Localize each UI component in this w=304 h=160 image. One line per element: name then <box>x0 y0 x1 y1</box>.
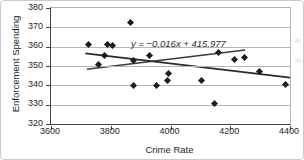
y-tick-label: 360 <box>13 41 43 50</box>
gridline-y-340 <box>51 85 290 86</box>
y-tick-mark <box>46 47 50 48</box>
trendline-equation: y = −0.016x + 415.977 <box>131 38 251 49</box>
y-tick-mark <box>46 66 50 67</box>
y-tick-label: 340 <box>13 80 43 89</box>
y-tick-label: 330 <box>13 99 43 108</box>
scatter-chart: Enforcement Spending y = −0.016x + 415.9… <box>0 0 304 160</box>
scan-artifact-green <box>295 39 301 42</box>
y-tick-label: 380 <box>13 3 43 12</box>
y-tick-mark <box>46 124 50 125</box>
plot-area <box>50 7 291 125</box>
y-tick-mark <box>46 8 50 9</box>
scan-artifact-pink <box>295 59 301 62</box>
y-tick-label: 370 <box>13 22 43 31</box>
gridline-y-330 <box>51 105 290 106</box>
x-axis-title: Crime Rate <box>50 144 289 155</box>
y-tick-mark <box>46 85 50 86</box>
y-tick-mark <box>46 27 50 28</box>
x-tick-label: 4400 <box>272 127 304 136</box>
gridline-y-370 <box>51 27 290 28</box>
x-tick-label: 4200 <box>212 127 246 136</box>
x-tick-label: 3600 <box>33 127 67 136</box>
gridline-y-350 <box>51 66 290 67</box>
y-tick-label: 350 <box>13 61 43 70</box>
y-tick-mark <box>46 105 50 106</box>
x-tick-label: 4000 <box>153 127 187 136</box>
x-tick-label: 3800 <box>93 127 127 136</box>
